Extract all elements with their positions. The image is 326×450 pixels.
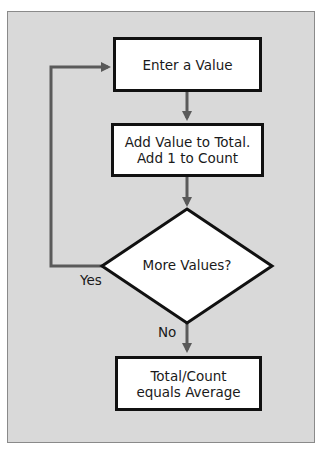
node-enter-value: Enter a Value xyxy=(113,37,262,92)
node-total-average-label: Total/Count equals Average xyxy=(136,368,240,400)
node-enter-value-label: Enter a Value xyxy=(142,57,232,73)
edge-label-yes: Yes xyxy=(80,272,102,288)
node-add-value: Add Value to Total. Add 1 to Count xyxy=(111,123,264,177)
node-total-average: Total/Count equals Average xyxy=(115,356,262,411)
decision-label: More Values? xyxy=(102,256,272,274)
edge-label-no: No xyxy=(158,324,176,340)
arrow-loop-yes-to-enter xyxy=(51,67,108,266)
node-add-value-label: Add Value to Total. Add 1 to Count xyxy=(125,134,250,166)
